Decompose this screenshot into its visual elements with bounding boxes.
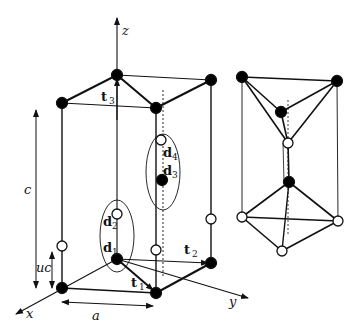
atom-filled — [151, 103, 162, 114]
t3-label: t3 — [101, 89, 115, 106]
lower-tetra-edge — [242, 217, 282, 251]
lower-tetra-edge — [242, 182, 289, 217]
atom-open-d2 — [112, 209, 122, 219]
top-face-edge-back — [117, 75, 211, 80]
tetrahedral-view — [242, 77, 338, 251]
lower-tetra-edge — [242, 217, 338, 221]
a-dimension-arrow — [62, 302, 153, 306]
d3-label: d3 — [163, 163, 178, 180]
atom-filled — [284, 177, 295, 188]
a-dimension-label: a — [92, 308, 100, 323]
lower-tetra-edge — [282, 221, 338, 251]
atom-filled — [57, 98, 68, 109]
labels: z x y c uc a t3 t2 t1 d1 d2 d4 d3 — [24, 23, 237, 323]
atom-open — [151, 245, 161, 255]
d1-label: d1 — [103, 240, 118, 257]
upper-tetra-edge — [288, 81, 337, 143]
c-dimension-label: c — [24, 182, 32, 197]
atom-filled — [276, 107, 287, 118]
atom-open — [277, 246, 287, 256]
upper-tetra-edge — [242, 77, 337, 81]
top-face-edge-right — [156, 80, 211, 108]
atom-open — [57, 241, 67, 251]
uc-dimension-label: uc — [36, 260, 52, 275]
lower-tetra-edge — [289, 182, 338, 221]
atom-open — [283, 138, 293, 148]
y-axis-label: y — [228, 294, 237, 309]
atom-open-d4 — [156, 135, 166, 145]
x-axis-label: x — [26, 306, 34, 321]
z-axis-label: z — [121, 23, 129, 38]
atom-filled — [57, 283, 68, 294]
atom-filled — [151, 288, 162, 299]
atom-filled — [112, 70, 123, 81]
atom-filled — [206, 258, 217, 269]
atom-filled — [237, 72, 248, 83]
lattice-vector-t2 — [117, 259, 208, 263]
central-bond-back — [283, 143, 284, 182]
atom-open — [333, 216, 343, 226]
wurtzite-unit-cell-diagram: z x y c uc a t3 t2 t1 d1 d2 d4 d3 — [0, 0, 356, 331]
upper-tetra-edge — [242, 77, 281, 112]
atom-filled — [332, 76, 343, 87]
upper-tetra-edge — [281, 81, 337, 112]
atom-open — [237, 212, 247, 222]
bottom-face-edge-right — [156, 263, 211, 293]
atom-open — [206, 214, 216, 224]
atom-filled — [206, 75, 217, 86]
t2-label: t2 — [184, 242, 198, 259]
atoms-tetrahedral-view — [237, 72, 344, 257]
prism-edge-right — [337, 81, 338, 221]
